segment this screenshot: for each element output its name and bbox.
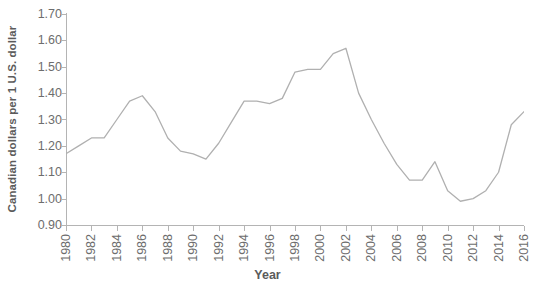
y-axis-tick-labels: 1.701.601.501.401.301.201.101.000.90 <box>20 0 62 293</box>
x-axis-tick-mark <box>371 226 372 231</box>
y-axis-tick-label: 1.00 <box>22 192 62 206</box>
x-axis-tick-label: 1988 <box>161 234 175 274</box>
x-axis-tick-mark <box>397 226 398 231</box>
x-axis-tick-label-text: 2006 <box>390 234 404 262</box>
x-axis-tick-label-text: 1984 <box>110 234 124 262</box>
x-axis-tick-mark <box>524 226 525 231</box>
y-axis-tick-label: 1.50 <box>22 60 62 74</box>
data-line-svg <box>66 14 524 225</box>
x-axis-tick-label: 1990 <box>186 234 200 274</box>
x-axis-tick-mark <box>320 226 321 231</box>
x-axis-tick-mark <box>168 226 169 231</box>
x-axis-tick-mark <box>270 226 271 231</box>
x-axis-tick-label: 1992 <box>212 234 226 274</box>
x-axis-tick-label-text: 2016 <box>517 234 531 262</box>
data-series-line <box>66 48 524 201</box>
x-axis-tick-label: 2010 <box>441 234 455 274</box>
y-axis-tick-mark <box>61 14 67 15</box>
y-axis-tick-label: 1.20 <box>22 139 62 153</box>
y-axis-tick-mark <box>61 67 67 68</box>
x-axis-tick-label-text: 2014 <box>492 234 506 262</box>
y-axis-title-text: Canadian dollars per 1 U.S. dollar <box>6 26 18 213</box>
x-axis-tick-label: 2000 <box>313 234 327 274</box>
x-axis-tick-label-text: 1994 <box>237 234 251 262</box>
x-axis-tick-mark <box>473 226 474 231</box>
x-axis-tick-label: 2002 <box>339 234 353 274</box>
x-axis-tick-mark <box>66 226 67 231</box>
x-axis-tick-label-text: 2000 <box>313 234 327 262</box>
x-axis-tick-mark <box>219 226 220 231</box>
y-axis-tick-mark <box>61 172 67 173</box>
x-axis-tick-label-text: 1996 <box>263 234 277 262</box>
x-axis-tick-mark <box>193 226 194 231</box>
x-axis-tick-label-text: 1990 <box>186 234 200 262</box>
y-axis-tick-mark <box>61 199 67 200</box>
x-axis-tick-label: 2012 <box>466 234 480 274</box>
exchange-rate-line-chart: Canadian dollars per 1 U.S. dollar 1.701… <box>0 0 535 293</box>
x-axis-tick-label: 2008 <box>415 234 429 274</box>
y-axis-tick-mark <box>61 119 67 120</box>
x-axis-tick-label-text: 2012 <box>466 234 480 262</box>
x-axis-tick-mark <box>346 226 347 231</box>
x-axis-tick-label: 2004 <box>364 234 378 274</box>
x-axis-tick-mark <box>244 226 245 231</box>
x-axis-tick-label-text: 1998 <box>288 234 302 262</box>
y-axis-tick-label: 1.60 <box>22 33 62 47</box>
y-axis-tick-mark <box>61 40 67 41</box>
x-axis-tick-label-text: 2002 <box>339 234 353 262</box>
y-axis-tick-label: 1.30 <box>22 113 62 127</box>
x-axis-tick-label: 1980 <box>59 234 73 274</box>
x-axis-tick-label: 1996 <box>263 234 277 274</box>
x-axis-tick-label-text: 2010 <box>441 234 455 262</box>
y-axis-tick-label: 1.10 <box>22 165 62 179</box>
x-axis-tick-label: 1984 <box>110 234 124 274</box>
y-axis-tick-label: 0.90 <box>22 218 62 232</box>
x-axis-tick-label-text: 1986 <box>135 234 149 262</box>
x-axis-tick-mark <box>117 226 118 231</box>
x-axis-tick-mark <box>499 226 500 231</box>
x-axis-tick-label-text: 1980 <box>59 234 73 262</box>
x-axis-tick-mark <box>448 226 449 231</box>
y-axis-tick-mark <box>61 146 67 147</box>
x-axis-tick-label: 1998 <box>288 234 302 274</box>
x-axis-tick-label: 1982 <box>84 234 98 274</box>
x-axis-tick-label: 2016 <box>517 234 531 274</box>
x-axis-tick-label-text: 1982 <box>84 234 98 262</box>
x-axis-tick-label: 2014 <box>492 234 506 274</box>
y-axis-tick-mark <box>61 93 67 94</box>
x-axis-tick-mark <box>422 226 423 231</box>
x-axis-tick-label-text: 1988 <box>161 234 175 262</box>
x-axis-tick-label: 1994 <box>237 234 251 274</box>
y-axis-tick-label: 1.40 <box>22 86 62 100</box>
x-axis-tick-label-text: 2004 <box>364 234 378 262</box>
x-axis-tick-label: 1986 <box>135 234 149 274</box>
x-axis-tick-mark <box>295 226 296 231</box>
x-axis-tick-label: 2006 <box>390 234 404 274</box>
x-axis-tick-mark <box>142 226 143 231</box>
plot-area <box>66 14 524 225</box>
x-axis-tick-mark <box>91 226 92 231</box>
y-axis-tick-label: 1.70 <box>22 7 62 21</box>
x-axis-tick-label-text: 2008 <box>415 234 429 262</box>
x-axis-tick-label-text: 1992 <box>212 234 226 262</box>
